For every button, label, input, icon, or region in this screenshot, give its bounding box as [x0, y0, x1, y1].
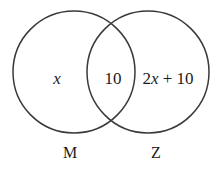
venn-diagram: x 10 2x + 10 M Z	[0, 0, 223, 176]
left-region-value: x	[53, 70, 61, 87]
intersection-region-value: 10	[105, 70, 122, 87]
right-region-variable: x	[151, 69, 159, 88]
set-label-m: M	[63, 145, 77, 161]
right-region-constant: + 10	[158, 69, 193, 88]
venn-circles-graphic	[0, 0, 223, 176]
right-region-value: 2x + 10	[142, 70, 193, 87]
right-region-coefficient: 2	[142, 69, 151, 88]
set-label-z: Z	[151, 145, 161, 161]
